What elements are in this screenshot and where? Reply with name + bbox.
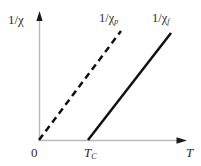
- curve-label-paramagnetic-subscript: p: [114, 17, 118, 26]
- curie-temperature-subscript: C: [91, 152, 96, 161]
- y-axis-label: 1/χ: [8, 13, 24, 26]
- curve-label-paramagnetic: 1/χp: [99, 12, 118, 25]
- susceptibility-temperature-figure: 1/χ T 0 TC 1/χp 1/χf: [0, 0, 201, 166]
- curve-paramagnetic-dashed: [39, 31, 121, 140]
- y-axis-label-text: 1/χ: [8, 12, 24, 27]
- x-axis-label: T: [186, 146, 193, 159]
- curve-label-ferromagnetic: 1/χf: [152, 12, 169, 25]
- curve-label-paramagnetic-prefix: 1/χ: [99, 11, 114, 25]
- curve-ferromagnetic-solid: [88, 33, 171, 140]
- origin-label-text: 0: [31, 145, 38, 160]
- origin-label: 0: [31, 146, 38, 159]
- y-axis-arrowhead: [36, 11, 42, 21]
- x-axis-label-text: T: [186, 145, 193, 160]
- curve-label-ferromagnetic-prefix: 1/χ: [152, 11, 167, 25]
- x-axis-arrowhead: [177, 137, 188, 144]
- curie-temperature-tick-label: TC: [84, 146, 97, 159]
